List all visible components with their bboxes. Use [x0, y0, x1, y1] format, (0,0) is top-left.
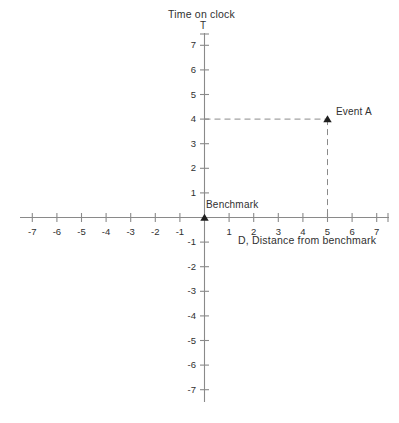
- event-a-annotation-label: Event A: [336, 106, 372, 117]
- coordinate-plane-figure: Time on clock T D, Distance from benchma…: [0, 0, 399, 423]
- y-tick-label: 2: [172, 162, 196, 173]
- y-tick-label: 3: [172, 138, 196, 149]
- x-tick-label: 3: [267, 226, 289, 237]
- x-tick-label: -1: [169, 226, 191, 237]
- x-tick-label: 7: [366, 226, 388, 237]
- x-tick-label: -7: [21, 226, 43, 237]
- benchmark-annotation-label: Benchmark: [206, 199, 258, 210]
- y-tick-label: 7: [172, 39, 196, 50]
- y-axis-title: Time on clock: [168, 8, 235, 20]
- y-tick-label: 6: [172, 64, 196, 75]
- y-tick-label: -7: [172, 384, 196, 395]
- x-tick-label: 1: [218, 226, 240, 237]
- x-tick-label: -3: [120, 226, 142, 237]
- x-tick-label: -4: [95, 226, 117, 237]
- x-tick-label: 5: [317, 226, 339, 237]
- y-tick-label: -2: [172, 261, 196, 272]
- y-axis-symbol-label: T: [200, 20, 206, 31]
- y-tick-label: -3: [172, 285, 196, 296]
- y-tick-label: -4: [172, 310, 196, 321]
- x-tick-label: -6: [46, 226, 68, 237]
- x-tick-label: 6: [341, 226, 363, 237]
- y-tick-label: -1: [172, 236, 196, 247]
- y-tick-label: -6: [172, 359, 196, 370]
- x-tick-label: -5: [71, 226, 93, 237]
- y-tick-label: 4: [172, 113, 196, 124]
- x-tick-label: 4: [292, 226, 314, 237]
- x-tick-label: 2: [243, 226, 265, 237]
- y-tick-label: 5: [172, 89, 196, 100]
- y-tick-label: -5: [172, 335, 196, 346]
- plot-canvas: [0, 0, 399, 423]
- x-tick-label: -2: [144, 226, 166, 237]
- y-tick-label: 1: [172, 187, 196, 198]
